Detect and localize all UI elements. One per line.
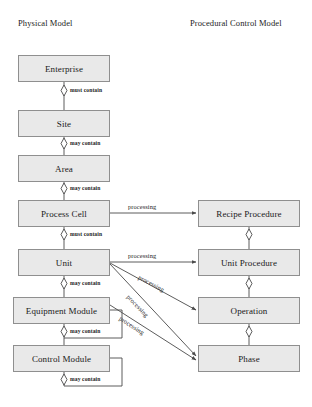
node-operation[interactable]: Operation xyxy=(198,297,300,324)
edge-label-unit-operation: processing xyxy=(137,273,165,292)
node-enterprise[interactable]: Enterprise xyxy=(18,55,110,82)
edge-unit-phase xyxy=(110,264,196,356)
node-process-cell[interactable]: Process Cell xyxy=(18,200,110,227)
node-site[interactable]: Site xyxy=(18,110,110,137)
edge-enterprise-site xyxy=(61,82,67,110)
edge-equipment-module-control-module xyxy=(61,324,67,345)
edge-recipe-procedure-unit-procedure xyxy=(246,227,252,249)
edge-area-process-cell xyxy=(61,182,67,200)
edge-process-cell-unit xyxy=(61,227,67,249)
diamond-control-module-self xyxy=(61,372,67,386)
edge-label-unit-equipment-module: may contain xyxy=(70,280,100,286)
edge-site-area xyxy=(61,137,67,155)
edge-label-area-process-cell: may contain xyxy=(70,185,100,191)
node-equipment-module[interactable]: Equipment Module xyxy=(13,297,110,324)
edge-unit-procedure-operation xyxy=(246,276,252,297)
figure-caption xyxy=(6,396,306,407)
column-header-physical-model: Physical Model xyxy=(18,18,73,28)
node-control-module[interactable]: Control Module xyxy=(13,345,110,372)
node-recipe-procedure[interactable]: Recipe Procedure xyxy=(198,200,300,227)
edge-equipment-module-phase xyxy=(110,305,196,360)
diagram-canvas: Physical Model Procedural Control Model xyxy=(0,0,312,407)
edge-label-unit-phase: processing xyxy=(125,293,150,318)
node-unit[interactable]: Unit xyxy=(18,249,110,276)
node-phase[interactable]: Phase xyxy=(198,345,300,372)
edge-label-process-cell-recipe-procedure: processing xyxy=(128,203,156,210)
edge-label-process-cell-unit: must contain xyxy=(70,231,102,237)
edge-operation-phase xyxy=(246,324,252,345)
node-unit-procedure[interactable]: Unit Procedure xyxy=(198,249,300,276)
edge-unit-equipment-module xyxy=(61,276,67,297)
edge-label-enterprise-site: must contain xyxy=(70,87,102,93)
edge-label-control-module-self: may contain xyxy=(70,376,100,382)
edge-label-site-area: may contain xyxy=(70,140,100,146)
edge-label-equipment-module-control-module: may contain xyxy=(70,328,100,334)
edge-label-unit-unit-procedure: processing xyxy=(128,252,156,259)
node-area[interactable]: Area xyxy=(18,155,110,182)
column-header-procedural-control-model: Procedural Control Model xyxy=(190,18,282,28)
edge-label-equipment-module-phase: processing xyxy=(118,315,146,336)
